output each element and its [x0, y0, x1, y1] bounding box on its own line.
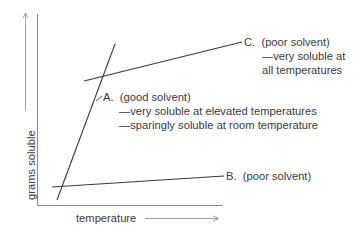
curve-a-title: (good solvent)	[120, 91, 191, 103]
curve-a-letter: A.	[103, 91, 114, 103]
curve-b-title: (poor solvent)	[243, 170, 311, 182]
y-axis-label: grams soluble	[25, 130, 37, 200]
curve-c-label: C. (poor solvent)	[244, 36, 330, 49]
x-axis-label: temperature	[76, 212, 136, 225]
curve-c-note-2: all temperatures	[262, 64, 342, 77]
curve-a-line	[57, 44, 115, 200]
curve-a-label: A. (good solvent)	[103, 91, 191, 104]
curve-c-note-1: —very soluble at	[262, 50, 345, 63]
curve-c-letter: C.	[244, 36, 255, 48]
curve-b-label: B. (poor solvent)	[226, 170, 311, 183]
curve-a-note-1: —very soluble at elevated temperatures	[119, 105, 317, 118]
curve-c-line	[84, 42, 242, 81]
curve-a-leader	[96, 96, 102, 101]
curve-c-title: (poor solvent)	[261, 36, 329, 48]
curve-a-note-2: —sparingly soluble at room temperature	[119, 119, 318, 132]
curve-b-line	[52, 176, 224, 187]
curve-b-letter: B.	[226, 170, 237, 182]
